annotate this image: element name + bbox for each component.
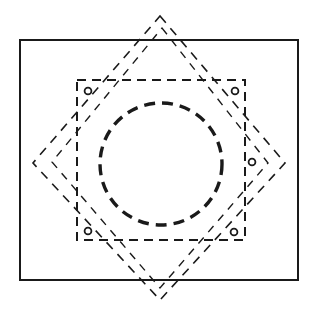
axis-aligned-dashed-square <box>77 80 245 240</box>
center-dashed-circle <box>100 103 222 225</box>
rotated-square-outer <box>33 16 285 300</box>
marker-right-circle <box>249 159 256 166</box>
rotated-square-inner <box>52 28 268 288</box>
marker-top-left-circle <box>85 88 92 95</box>
geometry-diagram <box>0 0 317 319</box>
marker-bottom-left-circle <box>85 228 92 235</box>
marker-top-right-circle <box>232 88 239 95</box>
figure-canvas <box>0 0 317 319</box>
marker-bottom-right-circle <box>231 229 238 236</box>
outer-rectangle <box>20 40 298 280</box>
